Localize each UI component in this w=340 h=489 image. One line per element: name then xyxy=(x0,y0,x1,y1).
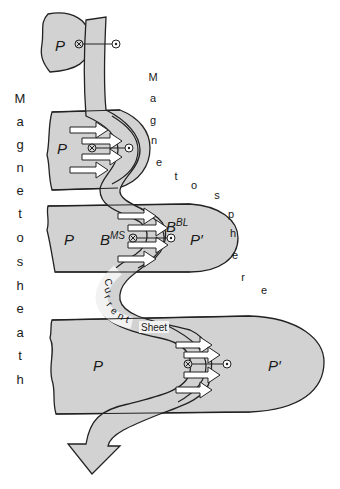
svg-text:t: t xyxy=(18,206,22,221)
svg-text:a: a xyxy=(16,325,24,340)
svg-text:e: e xyxy=(16,183,23,198)
svg-text:M: M xyxy=(15,91,26,106)
svg-text:e: e xyxy=(232,249,238,261)
label-plasma-1: P xyxy=(55,37,65,54)
svg-text:g: g xyxy=(150,114,156,126)
svg-text:r: r xyxy=(241,271,245,283)
svg-text:g: g xyxy=(16,137,23,152)
svg-text:a: a xyxy=(16,114,24,129)
label-plasma-4: P xyxy=(93,357,103,374)
svg-text:e: e xyxy=(261,284,267,296)
svg-text:s: s xyxy=(214,189,220,201)
label-sheet: Sheet xyxy=(141,322,167,333)
svg-text:t: t xyxy=(174,170,177,182)
magnetopause-current-sheet-diagram: P P P P′ P P′ BMS BBL C u r r e n t Shee… xyxy=(0,0,340,489)
svg-text:o: o xyxy=(16,230,23,245)
svg-text:e: e xyxy=(16,301,23,316)
svg-text:a: a xyxy=(150,92,157,104)
svg-text:h: h xyxy=(16,278,23,293)
svg-text:p: p xyxy=(228,208,234,220)
svg-text:n: n xyxy=(151,134,157,146)
label-plasma-2: P xyxy=(57,140,67,157)
svg-text:h: h xyxy=(16,372,23,387)
svg-text:M: M xyxy=(148,71,157,83)
svg-text:o: o xyxy=(191,179,197,191)
svg-text:s: s xyxy=(17,254,24,269)
diagram-canvas: P P P P′ P P′ BMS BBL C u r r e n t Shee… xyxy=(0,0,340,489)
label-plasma-4-prime: P′ xyxy=(268,357,282,374)
svg-text:e: e xyxy=(156,156,162,168)
svg-text:n: n xyxy=(16,160,23,175)
label-plasma-3-prime: P′ xyxy=(190,231,204,248)
svg-text:h: h xyxy=(230,227,236,239)
label-magnetosheath: M a g n e t o s h e a t h xyxy=(15,91,26,387)
label-plasma-3: P xyxy=(64,231,74,248)
svg-text:t: t xyxy=(18,348,22,363)
